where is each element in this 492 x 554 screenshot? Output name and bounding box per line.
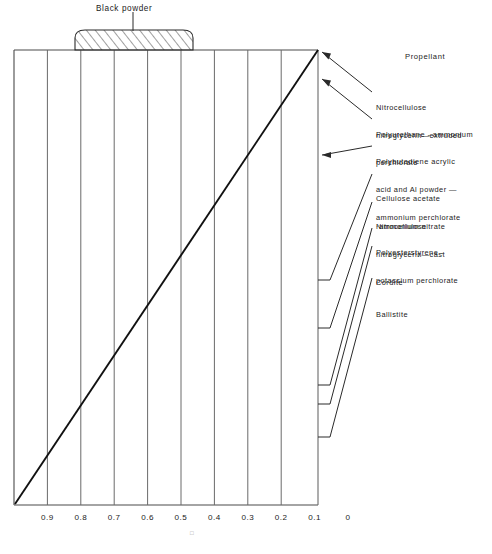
x-tick-label: 0.6 xyxy=(133,513,163,522)
x-tick-label: 0.2 xyxy=(266,513,296,522)
legend-line: Cordite xyxy=(376,278,403,287)
legend-line: Cellulose acetate xyxy=(376,194,445,203)
legend-header-propellant: Propellant xyxy=(405,52,445,61)
x-tick-label: 0.9 xyxy=(32,513,62,522)
legend-line: Ballistite xyxy=(376,310,408,319)
legend-leader-lines xyxy=(318,52,372,437)
legend-item-ballistite: Ballistite xyxy=(376,291,408,338)
black-powder-callout-label: Black powder xyxy=(96,4,152,13)
legend-line: Polyesterstyrene - xyxy=(376,248,458,257)
x-tick-label: 0.5 xyxy=(166,513,196,522)
faint-caption-mark: □ xyxy=(190,530,194,536)
legend-line: Polybutadiene acrylic xyxy=(376,157,461,166)
x-tick-label: 0.8 xyxy=(66,513,96,522)
x-tick-label: 0.1 xyxy=(300,513,330,522)
x-tick-label: 0.7 xyxy=(99,513,129,522)
diagonal-series-line xyxy=(15,50,318,504)
x-tick-label: 0.4 xyxy=(199,513,229,522)
x-tick-label: 0.3 xyxy=(233,513,263,522)
black-powder-block xyxy=(75,30,193,50)
x-tick-label: 0 xyxy=(333,513,363,522)
gridlines xyxy=(47,50,281,505)
